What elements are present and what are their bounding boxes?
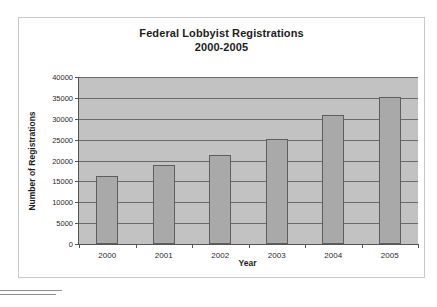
y-axis-tick-label: 0 [69,240,73,249]
x-axis-tick [192,244,193,248]
bar-2000 [96,176,118,244]
y-axis-tick [75,223,79,224]
bar-2002 [209,155,231,244]
y-axis-tick [75,77,79,78]
scan-artifact-line-1 [0,290,62,291]
x-axis-tick [362,244,363,248]
gridline [79,98,418,99]
y-axis-tick-label: 30000 [52,114,73,123]
y-axis-tick [75,140,79,141]
y-axis-title-label: Number of Registrations [27,111,37,210]
bar-2004 [322,115,344,244]
y-axis-tick [75,181,79,182]
gridline [79,140,418,141]
gridline [79,223,418,224]
x-axis-title: Year [78,258,417,268]
x-axis-tick [136,244,137,248]
y-axis-tick-label: 15000 [52,177,73,186]
y-axis-tick-label: 25000 [52,135,73,144]
y-axis-title: Number of Registrations [25,77,39,244]
x-axis-tick [418,244,419,248]
y-axis-tick-label: 20000 [52,156,73,165]
bar-2005 [379,97,401,244]
x-axis-tick [305,244,306,248]
chart-page-frame: Federal Lobbyist Registrations 2000-2005… [18,17,425,278]
scan-artifact [0,290,62,297]
y-axis-tick-label: 5000 [56,219,73,228]
chart-title-line1: Federal Lobbyist Registrations [139,27,303,39]
y-axis-tick [75,202,79,203]
plot-area: 4000035000300002500020000150001000050000… [78,77,418,245]
gridline [79,77,418,78]
chart-title-line2: 2000-2005 [19,40,424,54]
bar-2001 [153,165,175,244]
y-axis-tick-label: 35000 [52,93,73,102]
y-axis-tick-label: 10000 [52,198,73,207]
x-axis-title-label: Year [239,258,257,268]
chart-title: Federal Lobbyist Registrations 2000-2005 [19,26,424,54]
gridline [79,119,418,120]
x-axis-tick [249,244,250,248]
scan-artifact-line-2 [0,294,56,295]
x-axis-tick [79,244,80,248]
bar-2003 [266,139,288,244]
gridline [79,202,418,203]
y-axis-tick-label: 40000 [52,73,73,82]
y-axis-tick [75,161,79,162]
y-axis-tick [75,119,79,120]
gridline [79,161,418,162]
gridline [79,181,418,182]
y-axis-tick [75,98,79,99]
